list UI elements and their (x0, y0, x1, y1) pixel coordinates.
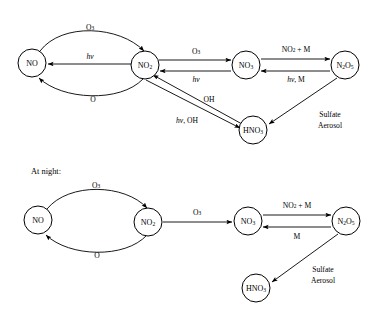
node-label-no-night: NO (32, 216, 44, 225)
node-no2-night[interactable]: NO2 (134, 208, 162, 236)
edge-no-to-no2-ozone-night (47, 189, 147, 209)
node-no2-day[interactable]: NO2 (131, 51, 159, 79)
annotation-sulfate-aerosol-day-line2: Aerosol (318, 121, 342, 130)
edge-label-hv-oh-day: hv, OH (176, 116, 198, 125)
node-label-hno3-night: HNO3 (246, 284, 266, 293)
annotation-sulfate-aerosol-day-line1: Sulfate (319, 110, 341, 119)
node-no-night[interactable]: NO (24, 206, 52, 234)
node-hno3-night[interactable]: HNO3 (242, 274, 270, 302)
node-label-no-day: NO (26, 59, 38, 68)
section-title-at-night: At night: (31, 167, 61, 176)
edge-label-hv-mid-day: hv (86, 52, 94, 61)
diagram-canvas: O3 hv O O3 hv NO2 + M hv, M OH hv, OH Su… (0, 0, 375, 312)
node-label-hno3-day: HNO3 (243, 126, 263, 135)
edge-label-no2-plus-m-night: NO2 + M (283, 201, 312, 210)
edge-label-o3-top-night: O3 (92, 181, 100, 190)
annotation-sulfate-aerosol-night-line2: Aerosol (311, 276, 335, 285)
edge-label-o3-right-day: O3 (192, 47, 200, 56)
daytime-section: O3 hv O O3 hv NO2 + M hv, M OH hv, OH Su… (18, 23, 359, 144)
edge-label-o3-right-night: O3 (193, 208, 201, 217)
edge-label-m-night: M (294, 232, 301, 241)
edge-no2-to-no-oxygen-night (46, 235, 147, 252)
node-n2o5-day[interactable]: N2O5 (331, 51, 359, 79)
edge-label-hv-no3-day: hv (192, 75, 200, 84)
edge-label-o-bottom-day: O (90, 95, 96, 104)
annotation-sulfate-aerosol-night-line1: Sulfate (312, 265, 334, 274)
nox-cycle-diagram: O3 hv O O3 hv NO2 + M hv, M OH hv, OH Su… (0, 0, 375, 312)
edge-label-oh-day: OH (204, 95, 215, 104)
node-hno3-day[interactable]: HNO3 (239, 116, 267, 144)
node-n2o5-night[interactable]: N2O5 (332, 207, 360, 235)
nighttime-section: At night: O3 O O3 NO2 + M M Sulfate Aero… (24, 167, 360, 302)
node-no3-night[interactable]: NO3 (234, 207, 262, 235)
edge-label-o-bottom-night: O (94, 251, 100, 260)
edge-no-to-no2-ozone (40, 31, 144, 51)
node-no-day[interactable]: NO (18, 49, 46, 77)
edge-no2-to-no-oxygen (39, 78, 143, 96)
edge-label-hv-m-day: hv, M (287, 75, 305, 84)
edge-label-o3-top-day: O3 (86, 23, 94, 32)
edge-label-no2-plus-m-day: NO2 + M (282, 45, 311, 54)
node-no3-day[interactable]: NO3 (232, 51, 260, 79)
